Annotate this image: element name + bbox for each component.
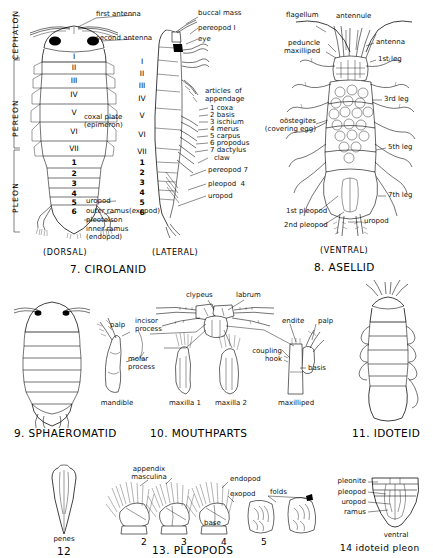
dorsal-segment-vi: VI [64, 127, 84, 136]
label-base: base [204, 520, 221, 528]
penes-drawing [52, 465, 76, 534]
label-pereopod-1: pereopod I [198, 25, 236, 33]
lateral-segment-vii: VII [134, 147, 150, 156]
pleopod-a [106, 482, 154, 534]
cirolanid-lateral-drawing [155, 20, 209, 238]
label-pereopod-7: pereopod 7 [208, 167, 248, 175]
label-first-antenna: first antenna [96, 11, 141, 19]
label-pleonite: pleonite [326, 478, 366, 486]
view-label-dorsal: (DORSAL) [43, 248, 87, 257]
pleopod-4 [248, 500, 274, 533]
label-uropod-idoteid: uropod [326, 499, 366, 507]
label-5th-leg: 5th leg [388, 144, 413, 152]
label-palp-maxilliped: palp [318, 318, 333, 326]
label-uropod-dorsal: uropod [86, 198, 111, 206]
caption-pleopods: 13. PLEOPODS [152, 544, 233, 556]
label-palp-mandible: palp [110, 322, 125, 330]
label-incisor-process: incisor process [135, 318, 162, 334]
dorsal-segment-i: I [64, 52, 84, 61]
label-appendix-masculina: appendix masculina [124, 466, 174, 482]
caption-sphaeromatid: 9. SPHAEROMATID [14, 427, 117, 439]
label-flagellum: flagellum [286, 12, 319, 20]
label-2nd-pleopod: 2nd pleopod [284, 222, 328, 230]
label-1st-leg: 1st leg [378, 56, 402, 64]
region-label-cephalon: CEPHALON [11, 10, 20, 60]
isopod-anatomy-plate: CEPHALON PEREON PLEON I II III IV V VI V… [0, 0, 433, 558]
dorsal-pleonite-3: 3 [64, 179, 84, 188]
label-eye: eye [198, 36, 211, 44]
label-uropod-asellid: uropod [364, 218, 389, 226]
dorsal-segment-iii: III [64, 76, 84, 85]
idoteid-drawing [359, 280, 418, 421]
view-label-ventral: (VENTRAL) [320, 246, 368, 255]
label-coxal-plate: coxal plate (epimeron) [84, 114, 123, 130]
dorsal-pleonite-4: 4 [64, 189, 84, 198]
lateral-segment-iii: III [134, 81, 150, 90]
lateral-segment-v: V [134, 111, 150, 120]
article-claw: claw [214, 155, 230, 163]
dorsal-segment-v: V [64, 108, 84, 117]
region-label-pleon: PLEON [11, 182, 20, 213]
caption-cirolanid: 7. CIROLANID [70, 263, 146, 275]
label-inner-ramus: inner ramus (endopod) [86, 226, 128, 242]
label-oostegites: oöstegites (covering egg) [264, 118, 316, 134]
lateral-pleonite-2: 2 [134, 168, 150, 177]
label-coupling-hook: coupling hook [248, 348, 282, 364]
label-3rd-leg: 3rd leg [384, 96, 409, 104]
part-maxilliped: maxilliped [272, 400, 320, 408]
label-basis-maxilliped: basis [308, 365, 326, 373]
label-1st-pleopod: 1st pleopod [286, 208, 327, 216]
dorsal-segment-ii: II [64, 63, 84, 72]
label-endopod: endopod [230, 476, 261, 484]
label-penes: penes [44, 536, 84, 544]
part-mandible: mandible [94, 400, 140, 408]
label-antennule: antennule [336, 13, 371, 21]
region-label-pereon: PEREON [11, 99, 20, 137]
label-7th-leg: 7th leg [388, 192, 413, 200]
lateral-segment-iv: IV [134, 94, 150, 103]
label-labrum: labrum [236, 292, 261, 300]
lateral-segment-i: I [134, 57, 150, 66]
pleopod-number-5: 5 [261, 537, 267, 547]
dorsal-segment-iv: IV [64, 90, 84, 99]
label-second-antenna: second antenna [96, 35, 152, 43]
lateral-segment-ii: II [134, 69, 150, 78]
caption-asellid: 8. ASELLID [314, 261, 375, 273]
dorsal-pleonite-5: 5 [64, 198, 84, 207]
label-endite: endite [282, 318, 304, 326]
part-maxilla-2: maxilla 2 [208, 400, 254, 408]
label-articles-of-appendage: articles of appendage [205, 88, 244, 104]
label-pleotelson: pleotelson [86, 217, 122, 225]
caption-penes: 12 [57, 545, 71, 557]
label-pleopod-4: pleopod 4 [208, 181, 245, 189]
label-exopod: exopod [230, 491, 256, 499]
label-maxilliped: maxilliped [284, 48, 320, 56]
label-outer-ramus: outer ramus(exopod) [86, 208, 160, 216]
lateral-pleonite-4: 4 [134, 188, 150, 197]
caption-idoteid: 11. IDOTEID [352, 427, 420, 439]
view-label-lateral: (LATERAL) [152, 248, 198, 257]
dorsal-pleonite-1: 1 [64, 158, 84, 167]
dorsal-segment-vii: VII [64, 144, 84, 153]
label-molar-process: molar process [128, 356, 155, 372]
caption-mouthparts: 10. MOUTHPARTS [150, 427, 247, 439]
lateral-pleonite-3: 3 [134, 178, 150, 187]
label-pleopod-idoteid: pleopod [326, 489, 366, 497]
caption-idoteid-pleon: 14 idoteid pleon [340, 543, 420, 553]
pleopod-5 [288, 494, 316, 533]
view-label-ventral-idoteid: ventral [372, 532, 420, 540]
label-uropod-lateral: uropod [208, 193, 233, 201]
label-folds: folds [270, 489, 287, 497]
lateral-segment-vi: VI [134, 130, 150, 139]
label-clypeus: clypeus [186, 292, 213, 300]
label-buccal-mass: buccal mass [198, 10, 241, 18]
dorsal-pleonite-6: 6 [64, 207, 84, 216]
idoteid-pleon-drawing [372, 478, 419, 527]
part-maxilla-1: maxilla 1 [162, 400, 208, 408]
sphaeromatid-drawing [14, 302, 90, 428]
lateral-pleonite-1: 1 [134, 158, 150, 167]
dorsal-pleonite-2: 2 [64, 169, 84, 178]
pleopod-2 [146, 482, 194, 534]
label-antenna: antenna [376, 39, 405, 47]
pleopod-number-2: 2 [141, 537, 147, 547]
